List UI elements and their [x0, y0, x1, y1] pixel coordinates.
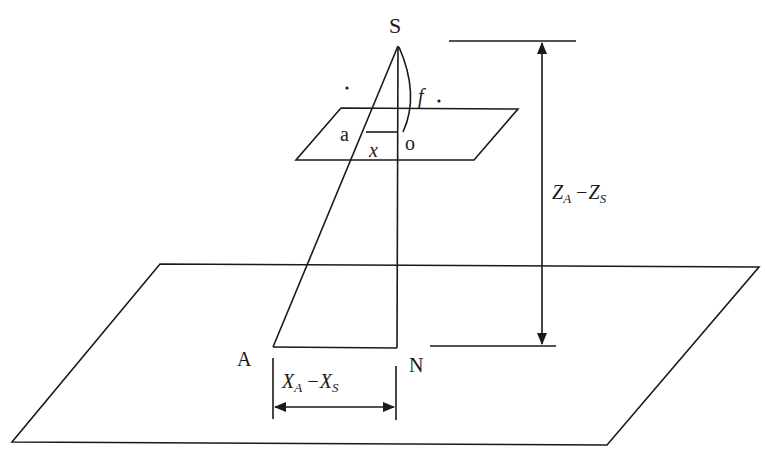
label-a-ground: A [237, 348, 252, 370]
label-s: S [389, 13, 401, 38]
label-x: x [368, 139, 378, 161]
label-f: f [418, 85, 426, 108]
focal-length-arc [399, 47, 411, 132]
collinearity-diagram: S f a o x A N ZA−ZS XA−XS [0, 0, 765, 455]
label-n: N [409, 354, 423, 376]
label-width-dimension: XA−XS [281, 370, 339, 395]
label-a-image: a [340, 123, 349, 145]
ground-plane [12, 264, 759, 445]
ray-s-to-a [273, 46, 398, 347]
vertical-s-to-n [397, 46, 398, 348]
dot-mark-left [345, 86, 348, 89]
segment-a-n [273, 347, 397, 348]
label-height-dimension: ZA−ZS [552, 181, 607, 206]
label-o: o [405, 132, 415, 154]
dot-mark-right [437, 99, 440, 102]
